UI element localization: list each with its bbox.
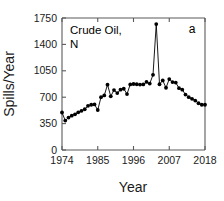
x-tick-label-2007: 2007 (158, 154, 182, 166)
data-point (76, 110, 80, 114)
x-axis-tick-labels: 19741985199620072018 (50, 154, 217, 166)
data-point (158, 82, 162, 86)
data-point (86, 104, 90, 108)
data-point (112, 88, 116, 92)
data-point (109, 94, 113, 98)
data-point (83, 107, 87, 111)
y-tick-label-1050: 1050 (34, 64, 58, 76)
x-axis-title: Year (119, 179, 148, 195)
data-point (132, 82, 136, 86)
data-point (197, 101, 201, 105)
data-point (73, 112, 77, 116)
data-point (203, 103, 207, 107)
data-point (164, 86, 168, 90)
x-tick-label-1974: 1974 (50, 154, 74, 166)
data-point (125, 92, 129, 96)
data-point (187, 95, 191, 99)
data-point (106, 83, 110, 87)
y-tick-label-350: 350 (39, 117, 57, 129)
y-tick-label-700: 700 (39, 91, 57, 103)
y-axis-ticks (62, 18, 66, 150)
data-point (184, 93, 188, 97)
series-annotation-line2: N (70, 38, 78, 50)
data-point (135, 82, 139, 86)
series-annotation-line1: Crude Oil, (70, 24, 122, 36)
x-tick-label-2018: 2018 (193, 154, 217, 166)
data-point (115, 91, 119, 95)
y-axis-tick-labels: 0350700105014001750 (34, 12, 58, 156)
y-axis-title: Spills/Year (1, 51, 17, 117)
data-point (138, 83, 142, 87)
data-point (200, 103, 204, 107)
data-point (63, 119, 67, 123)
data-point (171, 80, 175, 84)
data-point (122, 87, 126, 91)
chart-figure: 0350700105014001750 19741985199620072018… (0, 0, 224, 201)
panel-label: a (189, 22, 196, 36)
data-point (177, 86, 181, 90)
data-point (102, 94, 106, 98)
y-tick-label-1750: 1750 (34, 12, 58, 24)
data-point (70, 114, 74, 118)
data-point (167, 77, 171, 81)
data-point (180, 88, 184, 92)
data-point (193, 99, 197, 103)
data-point (93, 103, 97, 107)
x-tick-label-1996: 1996 (122, 154, 146, 166)
data-point (99, 95, 103, 99)
data-point (96, 108, 100, 112)
y-tick-label-1400: 1400 (34, 38, 58, 50)
x-tick-label-1985: 1985 (86, 154, 110, 166)
data-point (154, 22, 158, 26)
data-point (151, 73, 155, 77)
data-point (161, 79, 165, 83)
data-series-markers (60, 22, 207, 122)
data-point (119, 88, 123, 92)
data-point (141, 83, 145, 87)
data-point (89, 103, 93, 107)
data-point (67, 116, 71, 120)
data-point (145, 80, 149, 84)
data-point (148, 82, 152, 86)
data-point (174, 81, 178, 85)
data-point (60, 111, 64, 115)
data-point (80, 109, 84, 113)
data-point (190, 97, 194, 101)
data-series-line (62, 24, 205, 121)
data-point (128, 83, 132, 87)
